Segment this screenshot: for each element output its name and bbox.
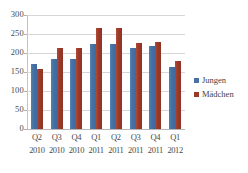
x-axis-category-label: Q12011 <box>86 131 106 171</box>
bar-maedchen <box>155 42 161 129</box>
legend-item-label: Jungen <box>202 76 226 85</box>
y-axis-tick-label: 50 <box>0 105 24 114</box>
legend-item-label: Mädchen <box>202 90 234 99</box>
chart-legend: JungenMädchen <box>194 76 248 104</box>
x-axis-quarter-label: Q4 <box>67 131 87 144</box>
x-axis-category-label: Q32011 <box>126 131 146 171</box>
bar-group <box>106 15 126 129</box>
legend-swatch-icon <box>194 78 199 83</box>
x-axis-year-label: 2012 <box>165 144 185 157</box>
x-axis-quarter-label: Q4 <box>146 131 166 144</box>
y-axis-tick-label: 250 <box>0 29 24 38</box>
bar-group <box>146 15 166 129</box>
x-axis-quarter-label: Q1 <box>165 131 185 144</box>
x-axis-category-label: Q22011 <box>106 131 126 171</box>
x-axis-category-label: Q12012 <box>165 131 185 171</box>
x-axis-year-label: 2011 <box>86 144 106 157</box>
x-axis-category-label: Q32010 <box>47 131 67 171</box>
axis-baseline <box>27 129 185 130</box>
bar-maedchen <box>136 43 142 129</box>
y-axis-tick-label: 100 <box>0 86 24 95</box>
y-axis-tick-label: 200 <box>0 48 24 57</box>
x-axis-quarter-label: Q1 <box>86 131 106 144</box>
bar-maedchen <box>116 28 122 129</box>
x-axis-year-label: 2010 <box>27 144 47 157</box>
bar-group <box>27 15 47 129</box>
y-axis-tick-label: 0 <box>0 124 24 133</box>
x-axis-year-label: 2011 <box>146 144 166 157</box>
bar-group <box>126 15 146 129</box>
x-axis-labels: Q22010Q32010Q42010Q12011Q22011Q32011Q420… <box>27 131 185 171</box>
x-axis-quarter-label: Q2 <box>106 131 126 144</box>
legend-item[interactable]: Jungen <box>194 76 248 85</box>
x-axis-category-label: Q42011 <box>146 131 166 171</box>
bar-chart: 300250200150100500 Q22010Q32010Q42010Q12… <box>0 0 248 173</box>
bar-groups <box>27 15 185 129</box>
bar-maedchen <box>76 48 82 129</box>
y-axis-labels: 300250200150100500 <box>0 0 24 173</box>
x-axis-quarter-label: Q2 <box>27 131 47 144</box>
x-axis-year-label: 2011 <box>106 144 126 157</box>
x-axis-quarter-label: Q3 <box>47 131 67 144</box>
y-axis-tick-label: 300 <box>0 10 24 19</box>
x-axis-year-label: 2010 <box>47 144 67 157</box>
x-axis-category-label: Q42010 <box>67 131 87 171</box>
bar-maedchen <box>96 28 102 129</box>
x-axis-category-label: Q22010 <box>27 131 47 171</box>
bar-group <box>47 15 67 129</box>
bar-maedchen <box>57 48 63 129</box>
x-axis-year-label: 2010 <box>67 144 87 157</box>
y-axis-tick-label: 150 <box>0 67 24 76</box>
bar-group <box>86 15 106 129</box>
bar-maedchen <box>175 61 181 129</box>
x-axis-quarter-label: Q3 <box>126 131 146 144</box>
legend-item[interactable]: Mädchen <box>194 90 248 99</box>
legend-swatch-icon <box>194 92 199 97</box>
bar-maedchen <box>37 69 43 129</box>
bar-group <box>67 15 87 129</box>
x-axis-year-label: 2011 <box>126 144 146 157</box>
bar-group <box>165 15 185 129</box>
